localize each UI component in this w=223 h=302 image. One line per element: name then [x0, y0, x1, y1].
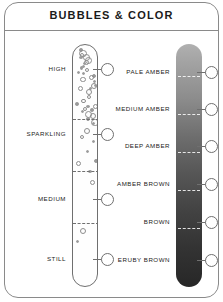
bubbles-level-label: HIGH — [49, 66, 66, 72]
bubbles-level-marker[interactable] — [93, 63, 115, 77]
page-title: BUBBLES & COLOR — [0, 9, 223, 21]
bubble — [93, 104, 98, 109]
bubbles-level-label: MEDIUM — [38, 196, 66, 202]
bubble — [92, 122, 95, 125]
bubble — [87, 95, 91, 99]
bubble — [76, 240, 79, 243]
bubbles-level-marker[interactable] — [93, 193, 115, 207]
bubble — [90, 113, 96, 119]
color-level-marker[interactable] — [197, 178, 219, 192]
bubble — [90, 180, 95, 185]
color-level-marker[interactable] — [197, 254, 219, 268]
bubble — [79, 56, 83, 60]
bubble — [80, 77, 85, 82]
bubble — [94, 159, 98, 163]
color-level-marker[interactable] — [197, 103, 219, 117]
marker-circle[interactable] — [101, 253, 114, 266]
color-level-marker[interactable] — [197, 216, 219, 230]
color-level-label: ERUBY BROWN — [118, 257, 170, 263]
title-divider — [5, 30, 218, 31]
bubble — [80, 228, 86, 234]
bubbles-divider — [73, 119, 98, 120]
marker-circle[interactable] — [205, 140, 218, 153]
color-gauge — [176, 44, 202, 287]
marker-circle[interactable] — [101, 63, 114, 76]
bubble — [94, 84, 97, 87]
marker-circle[interactable] — [101, 193, 114, 206]
bubbles-divider — [73, 223, 98, 224]
bubble — [86, 150, 89, 153]
marker-circle[interactable] — [205, 216, 218, 229]
marker-circle[interactable] — [101, 128, 114, 141]
bubble — [78, 86, 83, 91]
bubble — [76, 161, 82, 167]
bubble — [84, 128, 90, 134]
bubbles-gauge — [72, 44, 98, 287]
color-level-label: MEDIUM AMBER — [116, 106, 170, 112]
bubble — [86, 89, 92, 95]
bubble — [77, 71, 81, 75]
bubbles-level-marker[interactable] — [93, 253, 115, 267]
bubble — [85, 68, 89, 72]
bubble — [80, 66, 84, 70]
color-level-label: BROWN — [144, 219, 170, 225]
bubbles-level-label: STILL — [47, 256, 66, 262]
bubble — [81, 99, 85, 103]
color-level-marker[interactable] — [197, 140, 219, 154]
bubble — [75, 102, 79, 106]
bubbles-divider — [73, 171, 98, 172]
marker-circle[interactable] — [205, 103, 218, 116]
marker-circle[interactable] — [205, 254, 218, 267]
marker-circle[interactable] — [205, 178, 218, 191]
bubbles-and-color-card: BUBBLES & COLOR HIGHSPARKLINGMEDIUMSTILL… — [0, 0, 223, 302]
color-level-label: DEEP AMBER — [125, 143, 170, 149]
marker-circle[interactable] — [205, 66, 218, 79]
bubble — [80, 135, 84, 139]
color-level-label: AMBER BROWN — [117, 181, 170, 187]
color-level-label: PALE AMBER — [126, 69, 170, 75]
bubbles-level-marker[interactable] — [93, 128, 115, 142]
bubble — [82, 72, 85, 75]
bubble — [81, 110, 84, 113]
color-level-marker[interactable] — [197, 66, 219, 80]
bubbles-level-label: SPARKLING — [27, 131, 66, 137]
